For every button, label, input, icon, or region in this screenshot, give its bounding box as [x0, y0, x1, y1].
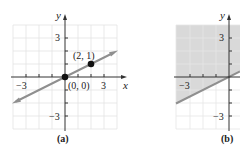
- tick-label-y-neg3: −3: [49, 111, 60, 122]
- y-axis-label: y: [55, 9, 61, 21]
- panel-a-axes: [11, 18, 124, 131]
- panel-a-caption: (a): [57, 133, 69, 145]
- point-label-origin: (0, 0): [68, 80, 90, 92]
- panel-b: y −3 3 −3 (b): [174, 9, 240, 145]
- x-axis-label: x: [122, 79, 128, 91]
- point-label-2-1: (2, 1): [73, 50, 95, 62]
- tick-label-y-3: 3: [219, 32, 224, 43]
- panel-a: y x −3 3 3 −3 (2, 1) (0, 0) (a): [11, 9, 128, 145]
- point-2-1: [88, 61, 95, 68]
- y-axis-arrow-icon: [63, 14, 67, 20]
- tick-label-y-neg3: −3: [213, 111, 224, 122]
- tick-label-x-neg3: −3: [179, 80, 190, 91]
- y-axis-label: y: [219, 9, 225, 21]
- figure: y x −3 3 3 −3 (2, 1) (0, 0) (a): [0, 0, 240, 152]
- panel-b-caption: (b): [221, 133, 233, 145]
- tick-label-x-neg3: −3: [16, 80, 27, 91]
- y-axis-arrow-icon: [227, 14, 231, 20]
- tick-label-y-3: 3: [55, 32, 60, 43]
- tick-label-x-3: 3: [101, 80, 106, 91]
